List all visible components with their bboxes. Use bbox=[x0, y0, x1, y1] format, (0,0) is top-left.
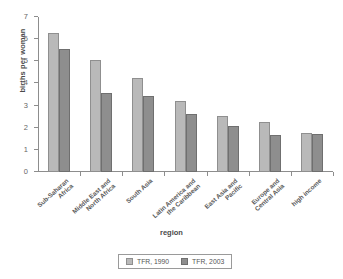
y-tick-label: 2 bbox=[24, 127, 28, 128]
bar-group bbox=[175, 101, 197, 172]
x-tick bbox=[164, 172, 165, 176]
plot-area: 01234567 bbox=[38, 17, 333, 172]
bar[interactable] bbox=[186, 114, 197, 172]
y-tick: 4 bbox=[34, 82, 38, 83]
x-tick bbox=[122, 172, 123, 176]
bar[interactable] bbox=[228, 126, 239, 173]
y-tick-label: 0 bbox=[24, 171, 28, 172]
legend-swatch-icon bbox=[181, 258, 188, 265]
legend-swatch-icon bbox=[126, 258, 133, 265]
y-axis-line bbox=[38, 17, 39, 172]
bar[interactable] bbox=[301, 133, 312, 172]
bar-group bbox=[90, 60, 112, 172]
legend-item[interactable]: TFR, 2003 bbox=[181, 258, 224, 265]
legend-item[interactable]: TFR, 1990 bbox=[126, 258, 169, 265]
x-axis-title: region bbox=[0, 228, 343, 237]
y-tick: 2 bbox=[34, 127, 38, 128]
bar-group bbox=[301, 133, 323, 172]
bar[interactable] bbox=[90, 60, 101, 172]
bar[interactable] bbox=[270, 135, 281, 172]
bar[interactable] bbox=[143, 96, 154, 172]
chart-legend: TFR, 1990 TFR, 2003 bbox=[118, 254, 232, 269]
bar[interactable] bbox=[259, 122, 270, 172]
bar[interactable] bbox=[132, 78, 143, 172]
x-tick bbox=[333, 172, 334, 176]
y-tick-label: 1 bbox=[24, 149, 28, 150]
y-tick: 3 bbox=[34, 105, 38, 106]
y-tick: 1 bbox=[34, 149, 38, 150]
bar-chart: births per woman 01234567 Sub-Saharan Af… bbox=[0, 0, 343, 279]
legend-label: TFR, 2003 bbox=[192, 258, 224, 265]
x-category-label: Sub-Saharan Africa bbox=[0, 177, 75, 248]
bar-group bbox=[259, 122, 281, 172]
y-tick-label: 6 bbox=[24, 38, 28, 39]
bar[interactable] bbox=[101, 93, 112, 172]
x-tick bbox=[80, 172, 81, 176]
y-tick-label: 7 bbox=[24, 16, 28, 17]
y-tick: 7 bbox=[34, 16, 38, 17]
bar[interactable] bbox=[312, 134, 323, 172]
x-tick bbox=[249, 172, 250, 176]
bar-group bbox=[132, 78, 154, 172]
bar[interactable] bbox=[59, 49, 70, 172]
y-tick-label: 5 bbox=[24, 60, 28, 61]
y-tick-label: 3 bbox=[24, 105, 28, 106]
bar[interactable] bbox=[175, 101, 186, 172]
bar-group bbox=[217, 116, 239, 172]
y-tick-label: 4 bbox=[24, 82, 28, 83]
y-tick: 0 bbox=[34, 171, 38, 172]
x-tick bbox=[207, 172, 208, 176]
y-tick: 6 bbox=[34, 38, 38, 39]
legend-label: TFR, 1990 bbox=[137, 258, 169, 265]
x-tick bbox=[291, 172, 292, 176]
bar[interactable] bbox=[48, 33, 59, 173]
bar[interactable] bbox=[217, 116, 228, 172]
bar-group bbox=[48, 33, 70, 173]
y-tick: 5 bbox=[34, 60, 38, 61]
